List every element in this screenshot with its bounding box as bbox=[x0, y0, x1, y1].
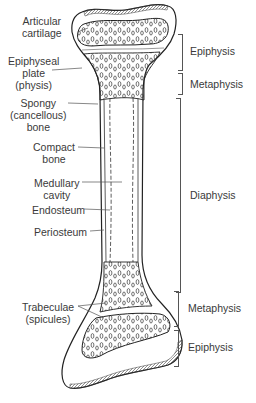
region-metaphysis-bottom: Metaphysis bbox=[188, 302, 241, 314]
bracket-diaphysis bbox=[180, 98, 181, 293]
label-periosteum: Periosteum bbox=[34, 226, 87, 238]
region-metaphysis-top: Metaphysis bbox=[190, 78, 243, 90]
label-epiphyseal-plate: Epiphyseal plate (physis) bbox=[8, 55, 59, 91]
label-line: bone bbox=[10, 121, 67, 133]
label-line: Compact bbox=[33, 141, 75, 153]
label-line: cartilage bbox=[22, 27, 62, 39]
label-line: (physis) bbox=[8, 79, 59, 91]
label-compact-bone: Compact bone bbox=[33, 141, 75, 165]
epiphysis-top-spongy bbox=[78, 18, 169, 46]
label-line: bone bbox=[33, 153, 75, 165]
label-endosteum: Endosteum bbox=[32, 204, 85, 216]
label-line: plate bbox=[8, 67, 59, 79]
label-articular-cartilage: Articular cartilage bbox=[22, 15, 62, 39]
region-epiphysis-bottom: Epiphysis bbox=[188, 341, 233, 353]
bracket-metaphysis-top bbox=[182, 73, 183, 95]
label-line: (cancellous) bbox=[10, 109, 67, 121]
bracket-epiphysis-bottom bbox=[178, 330, 179, 367]
region-epiphysis-top: Epiphysis bbox=[190, 45, 235, 57]
label-line: Medullary bbox=[34, 177, 80, 189]
label-line: cavity bbox=[34, 189, 80, 201]
bracket-epiphysis-top bbox=[182, 34, 183, 71]
label-trabeculae: Trabeculae (spicules) bbox=[22, 301, 74, 325]
metaphysis-top-spongy bbox=[84, 52, 160, 100]
region-diaphysis: Diaphysis bbox=[190, 189, 236, 201]
label-line: Epiphyseal bbox=[8, 55, 59, 67]
label-line: (spicules) bbox=[22, 313, 74, 325]
bracket-metaphysis-bottom bbox=[178, 291, 179, 327]
label-line: Trabeculae bbox=[22, 301, 74, 313]
label-spongy-bone: Spongy (cancellous) bone bbox=[10, 97, 67, 133]
label-line: Spongy bbox=[10, 97, 67, 109]
label-line: Articular bbox=[22, 15, 62, 27]
label-medullary-cavity: Medullary cavity bbox=[34, 177, 80, 201]
